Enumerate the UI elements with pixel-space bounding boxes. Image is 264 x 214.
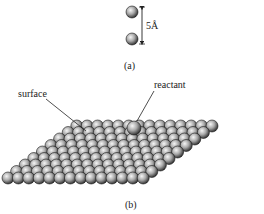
diagram-canvas: [0, 0, 264, 214]
caption-a: (a): [124, 61, 135, 71]
surface-atom: [137, 172, 149, 184]
caption-b: (b): [125, 200, 137, 210]
reactant-label: reactant: [154, 80, 186, 90]
distance-label: 5Å: [146, 21, 158, 31]
surface-leader-line: [46, 99, 86, 131]
atom-sphere: [126, 6, 138, 18]
surface-label: surface: [18, 89, 47, 99]
atom-sphere: [126, 33, 138, 45]
reactant-atom: [127, 121, 141, 135]
reactant-leader-line: [137, 91, 154, 121]
reactant-sphere: [127, 121, 141, 135]
surface-lattice: [2, 120, 218, 184]
panel-a-molecule-pair: [126, 6, 145, 45]
figure: 5Å (a) surface reactant (b): [0, 0, 264, 214]
